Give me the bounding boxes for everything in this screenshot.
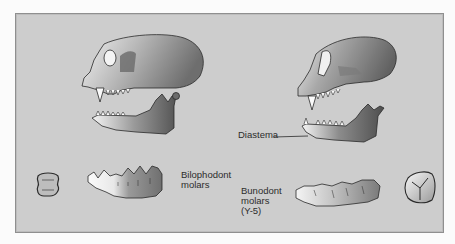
diastema-label: Diastema <box>238 130 278 140</box>
label-text: Diastema <box>238 129 278 140</box>
label-line: (Y-5) <box>241 206 282 216</box>
monkey-skull-illustration <box>16 14 443 232</box>
y5-molar-occlusal-icon <box>405 172 435 203</box>
figure-panel: Bilophodont molars Diastema Bunodont mol… <box>15 13 444 233</box>
label-line: molars <box>181 180 231 190</box>
bilophodont-molar-occlusal-icon <box>37 173 58 196</box>
bunodont-molars-label: Bunodont molars (Y-5) <box>241 186 282 216</box>
bilophodont-molars-label: Bilophodont molars <box>181 170 231 190</box>
